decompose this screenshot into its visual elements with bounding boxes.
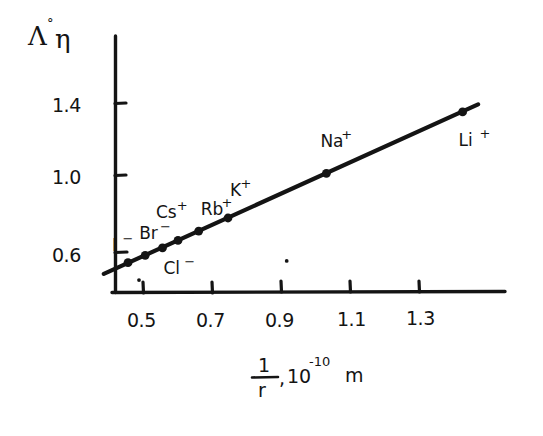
data-point-marker [224, 214, 233, 223]
x-axis-title-comma: , [279, 367, 285, 389]
data-point-marker [174, 236, 183, 245]
x-tick-mark-0.5 [143, 282, 144, 293]
stray-ink-dot [137, 278, 141, 282]
y-axis-title-eta: η [55, 24, 71, 54]
ion-symbol: Na [320, 131, 343, 151]
ion-charge: + [240, 176, 251, 191]
x-tick-label-5: 1.3 [406, 307, 435, 329]
plot-background [0, 0, 543, 436]
x-tick-label-1: 0.5 [127, 309, 156, 331]
x-axis-title-denominator: r [258, 379, 266, 401]
x-tick-mark-0.7 [212, 282, 213, 293]
x-tick-label-4: 1.1 [337, 308, 366, 330]
x-axis-title-fraction-bar [252, 377, 278, 378]
x-tick-mark-1.1 [350, 281, 351, 292]
ion-symbol: Cl [164, 258, 181, 278]
stray-ink-dot [285, 259, 289, 263]
x-tick-label-2: 0.7 [196, 309, 225, 331]
y-tick-label-3: 0.6 [52, 244, 81, 266]
ion-charge: + [479, 126, 490, 141]
y-tick-mark-1.0 [115, 175, 126, 176]
ion-symbol: Br [139, 223, 158, 243]
x-axis-title-numerator: 1 [258, 354, 270, 376]
y-axis-title-lambda: Λ [27, 21, 48, 51]
ion-charge: + [341, 127, 352, 142]
walden-product-plot-svg: 1.4 1.0 0.6 Λ ° η 0.5 0.7 0.9 1.1 1.3 1 … [0, 0, 543, 436]
x-axis-title-unit: m [345, 364, 364, 386]
x-tick-mark-1.3 [419, 281, 420, 292]
ion-symbol: Rb [201, 199, 224, 219]
ion-symbol: Li [459, 130, 473, 150]
ion-symbol: Cs [156, 202, 177, 222]
data-point-marker [458, 108, 467, 117]
chart-figure: 1.4 1.0 0.6 Λ ° η 0.5 0.7 0.9 1.1 1.3 1 … [0, 0, 543, 436]
data-point-marker [194, 227, 203, 236]
ion-charge: − [122, 231, 133, 246]
x-tick-mark-0.9 [281, 281, 282, 292]
data-point-marker [158, 243, 167, 252]
y-tick-label-1: 1.4 [52, 94, 81, 116]
x-axis-title-exponent: -10 [309, 354, 330, 369]
ion-charge: + [177, 198, 188, 213]
y-axis-title-degree: ° [47, 16, 54, 31]
x-axis-title-base: 10 [287, 365, 311, 387]
x-axis-line [112, 292, 505, 293]
ion-charge: − [184, 254, 195, 269]
y-tick-mark-1.4 [115, 103, 126, 104]
data-point-marker [322, 169, 331, 178]
data-point-marker [141, 251, 150, 260]
data-point-marker [124, 258, 133, 267]
y-tick-label-2: 1.0 [52, 166, 81, 188]
ion-symbol: I [112, 235, 117, 255]
x-tick-label-3: 0.9 [265, 309, 294, 331]
